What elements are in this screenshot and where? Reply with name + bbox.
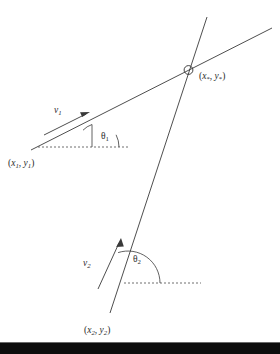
label-point-2-close: ): [107, 325, 110, 336]
angle-arc-theta-1-sweep: [83, 125, 92, 131]
label-angle-theta-1: θ1: [101, 131, 109, 142]
label-angle-2-sub: 2: [138, 258, 142, 265]
angle-arc-theta-2: [118, 251, 160, 283]
label-point-1-close: ): [31, 158, 34, 169]
label-point-2: (x2, y2): [84, 325, 110, 336]
label-point-1: (x1, y1): [8, 158, 34, 169]
geometry-diagram: (x1, y1) (x2, y2) (x*, y*) v1 v2 θ1 θ2: [0, 0, 280, 354]
label-intersection-point: (x*, y*): [199, 71, 225, 82]
ray-line-2: [110, 17, 207, 313]
vector-1-shaft: [44, 114, 86, 135]
label-intersection-close: ): [222, 71, 225, 82]
angle-arc-theta-1: [116, 135, 119, 147]
label-vector-1-sub: 1: [58, 109, 61, 116]
label-angle-1-sub: 1: [106, 135, 109, 142]
vector-2-arrowhead: [116, 238, 124, 247]
label-vector-2-sub: 2: [87, 262, 91, 269]
vector-2-shaft: [98, 243, 119, 289]
label-vector-1: v1: [54, 105, 62, 116]
diagram-canvas: (x1, y1) (x2, y2) (x*, y*) v1 v2 θ1 θ2: [0, 0, 280, 354]
ray-line-1: [31, 28, 272, 150]
bottom-bar: [0, 342, 280, 354]
label-vector-2: v2: [83, 258, 91, 269]
label-angle-theta-2: θ2: [133, 254, 142, 265]
